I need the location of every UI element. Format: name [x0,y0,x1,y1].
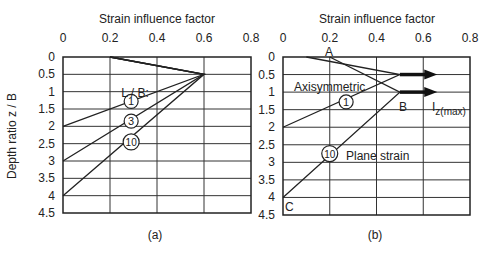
x-tick-label: 0.2 [102,31,119,45]
y-tick-label: 2.5 [38,137,55,151]
x-tick-label: 0.8 [243,31,260,45]
series-circle-label: 10 [324,149,336,160]
chart-b-y-tick-labels: 00.511.522.533.544.5 [258,50,275,222]
point-c-label: C [285,200,294,214]
chart-a-grid [63,57,251,213]
chart-a-legend-title: L / B: [121,86,149,100]
x-tick-label: 0 [280,31,287,45]
y-tick-label: 1.5 [258,103,275,117]
y-tick-label: 2.5 [258,138,275,152]
izmax-arrow-head-icon [424,70,437,80]
x-tick-label: 0.2 [321,31,338,45]
chart-b-title: Strain influence factor [319,12,435,26]
chart-a-caption: (a) [148,228,163,242]
chart-a-x-tick-labels: 00.20.40.60.8 [60,31,260,45]
chart-panel-a: Strain influence factor 00.20.40.60.8 00… [5,12,260,242]
chart-b-izmax-arrows [400,70,437,98]
y-tick-label: 2 [268,120,275,134]
izmax-arrow-head-icon [424,87,437,97]
y-tick-label: 4 [268,190,275,204]
y-tick-label: 0 [48,50,55,64]
y-tick-label: 0.5 [38,67,55,81]
x-tick-label: 0.4 [368,31,385,45]
y-tick-label: 2 [48,119,55,133]
y-tick-label: 3 [48,154,55,168]
chart-panel-b: Strain influence factor 00.20.40.60.8 00… [258,12,478,242]
y-tick-label: 4.5 [38,206,55,220]
x-tick-label: 0.4 [149,31,166,45]
series-circle-label: 3 [128,115,134,127]
axisymmetric-label: Axisymmetric [294,80,365,94]
x-tick-label: 0.6 [415,31,432,45]
y-tick-label: 0.5 [258,68,275,82]
chart-a-y-axis-label: Depth ratio z / B [5,93,19,179]
x-tick-label: 0.8 [462,31,479,45]
y-tick-label: 3 [268,155,275,169]
chart-a-y-tick-labels: 00.511.522.533.544.5 [38,50,55,220]
y-tick-label: 1 [48,85,55,99]
y-tick-label: 4 [48,189,55,203]
y-tick-label: 3.5 [38,171,55,185]
y-tick-label: 3.5 [258,173,275,187]
chart-b-x-tick-labels: 00.20.40.60.8 [280,31,479,45]
y-tick-label: 0 [268,50,275,64]
izmax-label: Iz(max) [432,100,466,117]
y-tick-label: 1 [268,85,275,99]
series-circle-label: 1 [343,96,349,108]
point-a-label: A [325,45,333,59]
chart-a-title: Strain influence factor [99,12,215,26]
series-circle-label: 10 [126,137,138,148]
izmax-subscript: z(max) [435,106,466,117]
x-tick-label: 0.6 [196,31,213,45]
y-tick-label: 1.5 [38,102,55,116]
point-b-label: B [399,100,407,114]
strain-influence-figure: Strain influence factor 00.20.40.60.8 00… [0,0,494,255]
x-tick-label: 0 [60,31,67,45]
chart-b-caption: (b) [368,228,383,242]
plane-strain-label: Plane strain [346,149,409,163]
y-tick-label: 4.5 [258,208,275,222]
